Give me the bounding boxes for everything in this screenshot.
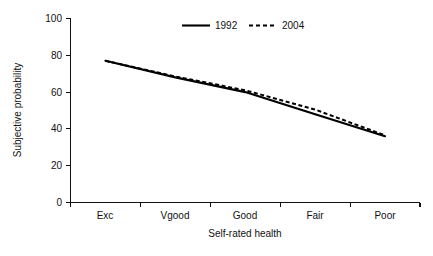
y-tick-label: 100 — [45, 13, 62, 24]
y-axis-ticks — [66, 19, 71, 203]
y-tick-label: 80 — [51, 50, 63, 61]
y-tick-label: 60 — [51, 87, 63, 98]
x-category-label-exc: Exc — [97, 210, 114, 221]
y-tick-label: 0 — [56, 197, 62, 208]
chart-figure: 100 80 60 40 20 0 Exc Vgood Good Fair Po… — [0, 0, 433, 256]
legend-label-1992: 1992 — [215, 20, 238, 31]
data-line-1992 — [105, 61, 385, 136]
x-category-label-poor: Poor — [374, 210, 396, 221]
x-category-label-vgood: Vgood — [161, 210, 190, 221]
chart-legend: 1992 2004 — [182, 20, 305, 31]
y-axis-tick-labels: 100 80 60 40 20 0 — [45, 13, 62, 208]
legend-label-2004: 2004 — [282, 20, 305, 31]
y-tick-label: 20 — [51, 160, 63, 171]
x-axis-title: Self-rated health — [208, 228, 281, 239]
y-axis-title: Subjective probability — [12, 63, 23, 158]
data-line-2004 — [105, 61, 385, 136]
x-axis-ticks — [71, 203, 421, 208]
chart-canvas: 100 80 60 40 20 0 Exc Vgood Good Fair Po… — [0, 0, 433, 256]
y-tick-label: 40 — [51, 123, 63, 134]
x-axis-category-labels: Exc Vgood Good Fair Poor — [97, 210, 397, 221]
x-category-label-good: Good — [233, 210, 257, 221]
x-category-label-fair: Fair — [306, 210, 324, 221]
